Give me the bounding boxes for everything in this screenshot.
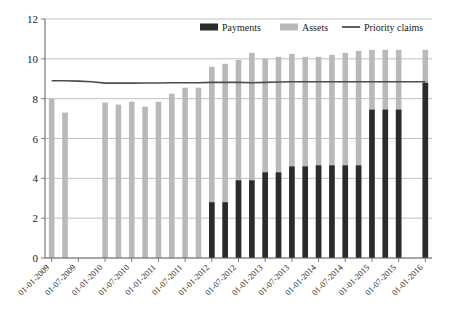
- bar-payments: [302, 166, 308, 258]
- bar-payments: [262, 172, 268, 258]
- bar-payments: [396, 110, 402, 258]
- bar-assets: [196, 88, 202, 258]
- bar-payments: [316, 165, 322, 258]
- bar-assets: [129, 102, 135, 258]
- ytick-label-0: 0: [33, 252, 39, 264]
- bar-assets: [142, 107, 148, 258]
- bar-payments: [369, 110, 375, 258]
- ytick-label-12: 12: [27, 13, 38, 25]
- bar-payments: [382, 110, 388, 258]
- ytick-label-8: 8: [33, 93, 39, 105]
- bar-payments: [329, 165, 335, 258]
- legend-label-assets: Assets: [302, 22, 328, 33]
- ytick-label-6: 6: [33, 133, 39, 145]
- legend-swatch-payments: [200, 24, 218, 31]
- legend-label-payments: Payments: [222, 22, 261, 33]
- bar-payments: [289, 166, 295, 258]
- bar-payments: [249, 180, 255, 258]
- ytick-label-10: 10: [27, 53, 39, 65]
- bar-line-chart: 02468101201-01-200901-07-200901-01-20100…: [0, 0, 450, 321]
- chart-container: 02468101201-01-200901-07-200901-01-20100…: [0, 0, 450, 321]
- bar-payments: [236, 180, 242, 258]
- bar-payments: [342, 165, 348, 258]
- bar-assets: [182, 88, 188, 258]
- bar-assets: [49, 99, 55, 258]
- bar-payments: [356, 165, 362, 258]
- bar-assets: [156, 102, 162, 258]
- bar-assets: [102, 103, 108, 258]
- bar-assets: [62, 113, 68, 258]
- ytick-label-2: 2: [33, 212, 39, 224]
- bar-assets: [116, 105, 122, 258]
- bar-payments: [209, 202, 215, 258]
- bar-assets: [169, 94, 175, 258]
- legend-label-priority: Priority claims: [364, 22, 423, 33]
- bar-payments: [423, 83, 429, 258]
- bar-payments: [276, 172, 282, 258]
- ytick-label-4: 4: [33, 172, 39, 184]
- legend-swatch-assets: [280, 24, 298, 31]
- bar-payments: [222, 202, 228, 258]
